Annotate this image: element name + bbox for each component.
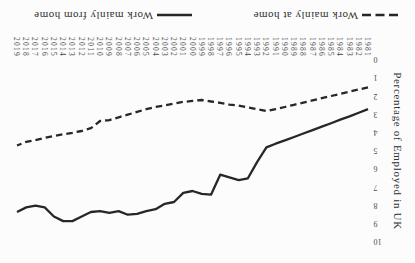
- y-tick-label: 1: [373, 73, 377, 82]
- y-tick-label: 10: [373, 237, 382, 246]
- x-tick-label: 1997: [215, 37, 224, 57]
- y-tick-label: 3: [373, 110, 377, 119]
- x-tick-label: 2015: [49, 37, 58, 57]
- chart-figure: Percentage of Employed in UK Work mainly…: [0, 0, 415, 263]
- x-tick-label: 1992: [261, 37, 270, 57]
- y-tick-label: 5: [373, 146, 377, 155]
- x-tick-label: 2007: [123, 37, 132, 57]
- x-tick-label: 2005: [141, 37, 150, 57]
- x-tick-label: 2017: [30, 37, 39, 57]
- legend-label-from-home: Work mainly from home: [34, 10, 153, 22]
- legend-label-at-home: Work mainly at home: [253, 10, 358, 22]
- legend: Work mainly at home Work mainly from hom…: [34, 10, 398, 22]
- x-tick-label: 2002: [169, 37, 178, 57]
- x-tick-label: 1995: [234, 37, 243, 57]
- x-tick-label: 1986: [317, 37, 326, 57]
- x-tick-label: 1989: [289, 37, 298, 57]
- x-tick-label: 1985: [326, 37, 335, 57]
- x-tick-label: 1996: [224, 37, 233, 57]
- series-line-dashed: [17, 87, 368, 145]
- x-tick-label: 2008: [114, 37, 123, 57]
- x-tick-label: 1984: [335, 37, 344, 57]
- y-tick-label: 7: [373, 183, 377, 192]
- y-tick-label: 9: [373, 219, 377, 228]
- x-tick-label: 1981: [363, 37, 372, 57]
- y-tick-label: 0: [373, 55, 377, 64]
- y-tick-label: 4: [373, 128, 377, 137]
- x-tick-label: 1990: [280, 37, 289, 57]
- y-axis-title: Percentage of Employed in UK: [392, 72, 404, 230]
- x-tick-label: 1998: [206, 37, 215, 57]
- x-tick-label: 2018: [21, 37, 30, 57]
- x-tick-label: 2013: [67, 37, 76, 57]
- x-tick-label: 2000: [188, 37, 197, 57]
- y-tick-label: 6: [373, 164, 377, 173]
- x-tick-label: 1983: [345, 37, 354, 57]
- x-tick-label: 1993: [252, 37, 261, 57]
- rotated-stage: Percentage of Employed in UK Work mainly…: [0, 0, 415, 263]
- x-tick-label: 1991: [271, 37, 280, 57]
- x-tick-label: 2004: [151, 37, 160, 57]
- x-tick-label: 2001: [178, 37, 187, 57]
- x-tick-label: 1988: [298, 37, 307, 57]
- x-tick-label: 2011: [86, 37, 95, 57]
- series-line-solid: [17, 109, 368, 221]
- x-tick-label: 1999: [197, 37, 206, 57]
- x-tick-label: 1982: [354, 37, 363, 57]
- x-tick-label: 2016: [40, 37, 49, 57]
- x-tick-label: 2012: [77, 37, 86, 57]
- x-tick-label: 1987: [308, 37, 317, 57]
- x-tick-label: 2009: [104, 37, 113, 57]
- y-tick-label: 2: [373, 92, 377, 101]
- y-tick-label: 8: [373, 201, 377, 210]
- x-tick-label: 2006: [132, 37, 141, 57]
- x-tick-label: 1994: [243, 37, 252, 57]
- line-chart: Percentage of Employed in UK Work mainly…: [0, 0, 415, 263]
- x-tick-label: 2003: [160, 37, 169, 57]
- x-tick-label: 2010: [95, 37, 104, 57]
- x-tick-label: 2014: [58, 37, 67, 57]
- x-tick-label: 2019: [12, 37, 21, 57]
